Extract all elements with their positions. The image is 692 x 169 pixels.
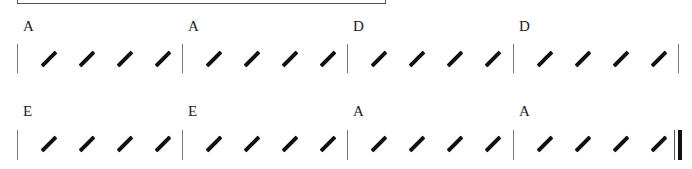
barline bbox=[182, 44, 183, 73]
barline bbox=[17, 130, 18, 160]
beat-slash-icon bbox=[537, 136, 554, 153]
chord-symbol: D bbox=[519, 19, 530, 34]
beat-slash-icon bbox=[651, 51, 668, 68]
beat-slash-icon bbox=[282, 51, 299, 68]
beat-slash-icon bbox=[537, 51, 554, 68]
beat-slash-icon bbox=[117, 136, 134, 153]
beat-slash-icon bbox=[613, 51, 630, 68]
beat-slash-icon bbox=[206, 51, 223, 68]
beat-slash-icon bbox=[575, 51, 592, 68]
beat-slash-icon bbox=[485, 51, 502, 68]
beat-slash-icon bbox=[613, 136, 630, 153]
chord-symbol: A bbox=[353, 104, 364, 119]
beat-slash-icon bbox=[206, 136, 223, 153]
chord-symbol: D bbox=[353, 19, 364, 34]
barline bbox=[347, 130, 348, 160]
beat-slash-icon bbox=[79, 136, 96, 153]
beat-slash-icon bbox=[485, 136, 502, 153]
beat-slash-icon bbox=[320, 51, 337, 68]
chord-symbol: E bbox=[188, 104, 197, 119]
beat-slash-icon bbox=[409, 51, 426, 68]
beat-slash-icon bbox=[244, 51, 261, 68]
beat-slash-icon bbox=[41, 51, 58, 68]
beat-slash-icon bbox=[651, 136, 668, 153]
beat-slash-icon bbox=[320, 136, 337, 153]
barline bbox=[17, 44, 18, 73]
beat-slash-icon bbox=[575, 136, 592, 153]
beat-slash-icon bbox=[371, 51, 388, 68]
beat-slash-icon bbox=[244, 136, 261, 153]
barline bbox=[347, 44, 348, 73]
barline bbox=[182, 130, 183, 160]
title-box-partial bbox=[17, 0, 386, 4]
chord-symbol: A bbox=[519, 104, 530, 119]
beat-slash-icon bbox=[41, 136, 58, 153]
beat-slash-icon bbox=[117, 51, 134, 68]
final-barline-thick bbox=[678, 130, 682, 160]
beat-slash-icon bbox=[409, 136, 426, 153]
beat-slash-icon bbox=[282, 136, 299, 153]
beat-slash-icon bbox=[155, 136, 172, 153]
beat-slash-icon bbox=[447, 136, 464, 153]
chord-symbol: A bbox=[188, 19, 199, 34]
barline bbox=[513, 44, 514, 73]
beat-slash-icon bbox=[447, 51, 464, 68]
chord-symbol: A bbox=[23, 19, 34, 34]
final-barline-thin bbox=[674, 130, 675, 160]
beat-slash-icon bbox=[79, 51, 96, 68]
chord-symbol: E bbox=[23, 104, 32, 119]
barline bbox=[513, 130, 514, 160]
beat-slash-icon bbox=[155, 51, 172, 68]
beat-slash-icon bbox=[371, 136, 388, 153]
barline bbox=[678, 44, 679, 73]
